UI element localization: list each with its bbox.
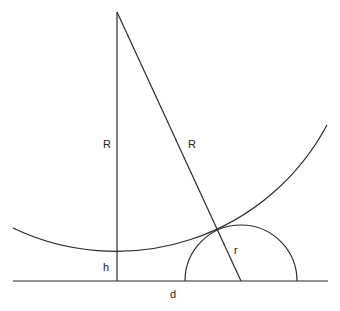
label-vertical-R: R: [103, 138, 111, 150]
large-circle-arc: [13, 125, 327, 251]
geometry-diagram: R R h r d: [0, 0, 340, 311]
small-semicircle: [185, 225, 297, 281]
slant-radius-line: [117, 12, 241, 281]
label-r: r: [234, 244, 238, 256]
label-h: h: [103, 261, 109, 273]
label-slant-R: R: [188, 138, 196, 150]
label-d: d: [170, 288, 176, 300]
